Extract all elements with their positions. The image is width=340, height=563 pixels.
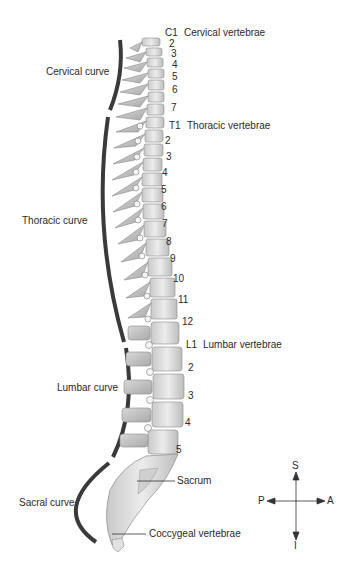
sacrum-label: Sacrum (177, 475, 211, 487)
thoracic-number: 12 (182, 316, 193, 328)
orientation-compass (267, 472, 325, 540)
compass-superior-label: S (292, 460, 299, 472)
thoracic-number: 2 (165, 135, 171, 147)
thoracic-number: 4 (162, 167, 168, 179)
thoracic-number: 11 (178, 294, 188, 306)
lumbar-number: 3 (188, 390, 194, 402)
compass-posterior-label: P (258, 495, 265, 507)
lumbar-number: 5 (176, 444, 182, 456)
cervical-vertebrae-label: Cervical vertebrae (184, 27, 265, 39)
cervical-curve-label: Cervical curve (46, 66, 109, 78)
lumbar-l1-number: L1 (186, 339, 197, 351)
thoracic-t1-number: T1 (169, 120, 181, 132)
compass-anterior-label: A (327, 495, 334, 507)
thoracic-number: 8 (166, 236, 172, 248)
sacral-curve-label: Sacral curve (19, 497, 75, 509)
lumbar-curve-label: Lumbar curve (57, 382, 118, 394)
cervical-number: 6 (172, 84, 178, 96)
lumbar-number: 2 (188, 362, 194, 374)
lumbar-vertebrae-label: Lumbar vertebrae (203, 339, 282, 351)
thoracic-number: 5 (161, 184, 167, 196)
coccygeal-vertebrae-label: Coccygeal vertebrae (149, 528, 241, 540)
thoracic-number: 7 (162, 218, 168, 230)
thoracic-number: 3 (166, 151, 172, 163)
cervical-number: 4 (172, 59, 178, 71)
spine-illustration (0, 0, 340, 563)
thoracic-curve-label: Thoracic curve (22, 215, 88, 227)
cervical-number: 5 (172, 71, 178, 83)
coccyx-shape (112, 538, 124, 552)
compass-inferior-label: I (294, 540, 297, 552)
thoracic-number: 6 (161, 201, 167, 213)
thoracic-number: 9 (170, 253, 176, 265)
sacral-curve-line (76, 463, 109, 542)
cervical-number: 7 (171, 102, 177, 114)
lumbar-number: 4 (185, 417, 191, 429)
cervical-curve-line (110, 40, 121, 110)
thoracic-number: 10 (173, 273, 184, 285)
thoracic-curve-line (103, 117, 124, 342)
thoracic-vertebrae-label: Thoracic vertebrae (187, 120, 270, 132)
